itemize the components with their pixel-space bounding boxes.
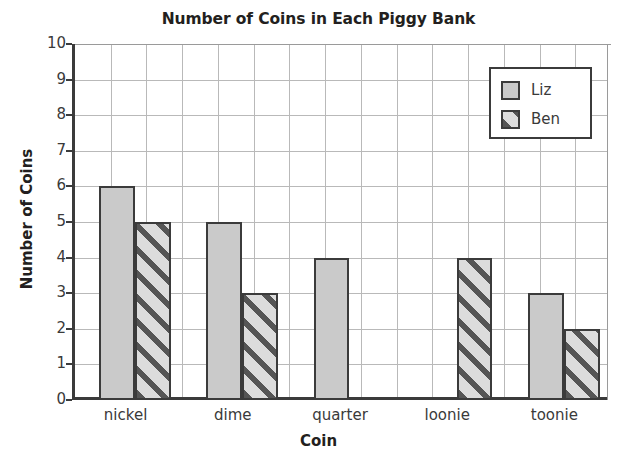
y-tick-label: 2 [26, 319, 66, 337]
y-tick-mark [66, 114, 72, 116]
legend-label-liz: Liz [531, 83, 551, 98]
y-tick-mark [66, 43, 72, 45]
legend-item-ben: Ben [501, 106, 590, 132]
y-axis-title: Number of Coins [18, 119, 36, 319]
y-tick-label: 9 [26, 70, 66, 88]
x-axis-title: Coin [0, 432, 637, 450]
y-tick-label: 1 [26, 354, 66, 372]
legend-swatch-liz-icon [501, 81, 520, 100]
y-tick-mark [66, 328, 72, 330]
bar-chart: Number of Coins in Each Piggy Bank 01234… [0, 0, 637, 463]
y-tick-label: 10 [26, 34, 66, 52]
y-tick-label: 0 [26, 390, 66, 408]
y-tick-mark [66, 363, 72, 365]
y-tick-mark [66, 79, 72, 81]
legend-item-liz: Liz [501, 77, 590, 103]
x-tick-label: toonie [501, 406, 608, 424]
x-tick-label: quarter [286, 406, 393, 424]
y-tick-mark [66, 257, 72, 259]
y-tick-mark [66, 399, 72, 401]
y-tick-mark [66, 221, 72, 223]
legend-label-ben: Ben [531, 112, 560, 127]
y-tick-mark [66, 185, 72, 187]
x-tick-label: nickel [72, 406, 179, 424]
x-tick-label: dime [179, 406, 286, 424]
legend: Liz Ben [489, 67, 592, 139]
y-tick-mark [66, 150, 72, 152]
legend-swatch-ben-icon [501, 110, 520, 129]
x-tick-label: loonie [394, 406, 501, 424]
y-tick-mark [66, 292, 72, 294]
